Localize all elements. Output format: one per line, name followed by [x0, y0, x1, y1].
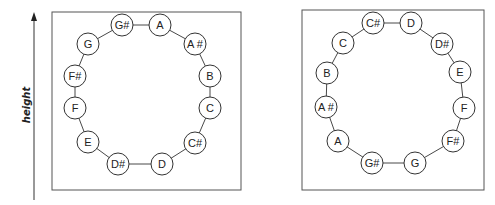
note-label: G: [411, 157, 420, 169]
note-label: D#: [435, 38, 450, 50]
note-label: G: [84, 38, 93, 50]
note-node: G#: [361, 152, 383, 174]
note-node: G#: [111, 14, 133, 36]
axis-label: height: [21, 86, 32, 124]
note-node: F#: [442, 130, 464, 152]
note-label: A: [334, 135, 342, 147]
note-node: B: [199, 65, 221, 87]
note-node: F#: [64, 65, 86, 87]
note-node: F: [453, 97, 475, 119]
note-node: C: [332, 32, 354, 54]
height-axis: height: [21, 12, 37, 200]
note-label: E: [456, 66, 463, 78]
note-node: A #: [315, 96, 337, 118]
arrow-up-icon: [31, 12, 37, 21]
note-node: D#: [107, 153, 129, 175]
note-label: F#: [69, 70, 83, 82]
note-label: A #: [318, 101, 335, 113]
note-label: A: [156, 19, 164, 31]
note-label: E: [84, 136, 91, 148]
note-label: B: [323, 67, 330, 79]
note-node: D#: [431, 33, 453, 55]
note-node: C#: [184, 132, 206, 154]
note-label: C#: [188, 137, 203, 149]
right-panel: C#DD#EFF#GG#AA #BC: [302, 10, 484, 190]
note-label: F: [461, 102, 468, 114]
note-node: E: [77, 131, 99, 153]
note-label: G#: [115, 19, 131, 31]
note-node: C#: [362, 12, 384, 34]
note-node: C: [199, 97, 221, 119]
note-node: G: [404, 152, 426, 174]
note-node: A: [327, 130, 349, 152]
note-node: G: [77, 33, 99, 55]
note-node: B: [316, 62, 338, 84]
note-label: B: [206, 70, 213, 82]
note-label: C: [206, 102, 214, 114]
note-node: D: [151, 153, 173, 175]
note-label: C#: [366, 17, 381, 29]
left-panel: G#AA #BCC#DD#EFF#G: [52, 12, 241, 190]
pitch-helix-diagram: height G#AA #BCC#DD#EFF#G C#DD#EFF#GG#AA…: [0, 0, 495, 205]
note-node: D: [400, 12, 422, 34]
note-label: A #: [187, 38, 204, 50]
note-label: D: [407, 17, 415, 29]
note-node: F: [64, 97, 86, 119]
note-label: D#: [111, 158, 126, 170]
note-label: F#: [447, 135, 461, 147]
note-node: A #: [184, 33, 206, 55]
note-node: A: [149, 14, 171, 36]
note-label: D: [158, 158, 166, 170]
note-label: F: [72, 102, 79, 114]
note-node: E: [449, 61, 471, 83]
note-label: G#: [365, 157, 381, 169]
note-label: C: [339, 37, 347, 49]
